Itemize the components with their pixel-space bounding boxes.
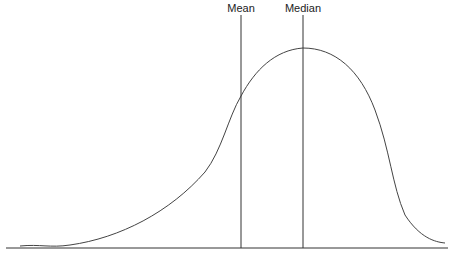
skewed-distribution-diagram (0, 0, 453, 256)
mean-label: Mean (227, 2, 255, 14)
distribution-curve (20, 48, 445, 246)
median-label: Median (285, 2, 321, 14)
